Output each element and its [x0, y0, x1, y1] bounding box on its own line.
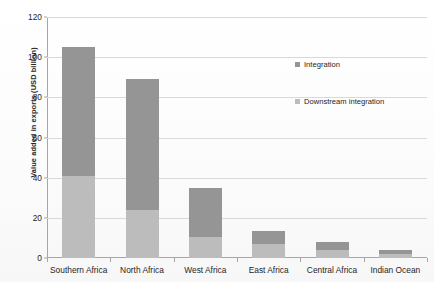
y-tick-mark: [44, 137, 47, 138]
x-tick-mark: [237, 258, 238, 262]
bar-segment-integration: [62, 47, 95, 176]
x-tick-mark: [427, 258, 428, 262]
bar-segment-downstream-integration: [252, 244, 285, 258]
y-tick-mark: [44, 217, 47, 218]
x-axis-category-label: North Africa: [120, 265, 164, 275]
bar-west-africa[interactable]: [189, 188, 222, 258]
y-tick-mark: [44, 17, 47, 18]
plot-area: 020406080100120 Southern AfricaNorth Afr…: [47, 17, 427, 258]
bar-segment-integration: [189, 188, 222, 237]
gridline: [47, 218, 427, 219]
chart-legend: IntegrationDownstream integration: [295, 60, 430, 134]
bar-segment-downstream-integration: [126, 210, 159, 258]
y-tick-label: 60: [33, 133, 42, 143]
bar-segment-downstream-integration: [189, 237, 222, 258]
legend-item[interactable]: Integration: [295, 60, 430, 69]
y-tick-mark: [44, 57, 47, 58]
x-axis-category-label: Central Africa: [307, 265, 357, 275]
bar-segment-downstream-integration: [379, 254, 412, 258]
x-tick-mark: [300, 258, 301, 262]
x-tick-mark: [364, 258, 365, 262]
legend-label: Downstream integration: [304, 97, 384, 106]
y-tick-label: 100: [28, 52, 42, 62]
gridline: [47, 178, 427, 179]
gridline: [47, 57, 427, 58]
x-axis-category-label: East Africa: [249, 265, 289, 275]
bar-chart: Value added in exports (USD billion) 020…: [0, 0, 434, 282]
gridline: [47, 138, 427, 139]
bar-segment-downstream-integration: [62, 176, 95, 258]
y-tick-label: 40: [33, 173, 42, 183]
x-axis-category-label: Indian Ocean: [370, 265, 420, 275]
x-tick-mark: [47, 258, 48, 262]
y-tick-mark: [44, 177, 47, 178]
y-tick-label: 20: [33, 213, 42, 223]
bar-segment-integration: [252, 231, 285, 244]
x-axis-category-label: West Africa: [184, 265, 226, 275]
x-tick-mark: [110, 258, 111, 262]
bar-indian-ocean[interactable]: [379, 250, 412, 258]
legend-swatch-icon: [295, 99, 300, 104]
legend-swatch-icon: [295, 62, 300, 67]
bar-east-africa[interactable]: [252, 231, 285, 258]
x-axis-category-label: Southern Africa: [50, 265, 107, 275]
bar-north-africa[interactable]: [126, 79, 159, 258]
legend-item[interactable]: Downstream integration: [295, 97, 430, 106]
y-tick-mark: [44, 97, 47, 98]
bar-segment-integration: [316, 242, 349, 250]
gridline: [47, 17, 427, 18]
bar-segment-integration: [126, 79, 159, 210]
legend-label: Integration: [304, 60, 340, 69]
bar-central-africa[interactable]: [316, 242, 349, 258]
y-tick-label: 80: [33, 92, 42, 102]
y-tick-label: 0: [37, 253, 42, 263]
bar-segment-downstream-integration: [316, 250, 349, 258]
x-tick-mark: [174, 258, 175, 262]
y-tick-label: 120: [28, 12, 42, 22]
bar-southern-africa[interactable]: [62, 47, 95, 258]
